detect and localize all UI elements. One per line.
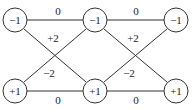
node-n1: −1 — [3, 8, 27, 32]
node-label: +1 — [170, 85, 182, 97]
node-label: +1 — [9, 85, 21, 97]
node-n3: −1 — [164, 8, 188, 32]
node-label: −1 — [170, 14, 182, 26]
edge-label-cross-left-down: +2 — [47, 32, 59, 44]
edge-label-top-right: 0 — [133, 5, 139, 17]
edge-label-bottom-right: 0 — [133, 94, 139, 106]
node-label: −1 — [9, 14, 21, 26]
edge-label-cross-right-down: +2 — [127, 32, 139, 44]
node-n6: +1 — [164, 79, 188, 103]
node-n4: +1 — [3, 79, 27, 103]
edge-label-cross-left-up: −2 — [43, 67, 55, 79]
edge-label-bottom-left: 0 — [55, 94, 61, 106]
node-n2: −1 — [83, 8, 107, 32]
node-label: −1 — [89, 14, 101, 26]
node-n5: +1 — [83, 79, 107, 103]
graph-diagram: 0 0 0 0 +2 −2 +2 −2 −1 −1 −1 +1 +1 — [0, 0, 196, 110]
edge-label-cross-right-up: −2 — [123, 67, 135, 79]
edge-label-top-left: 0 — [55, 5, 61, 17]
node-label: +1 — [89, 85, 101, 97]
